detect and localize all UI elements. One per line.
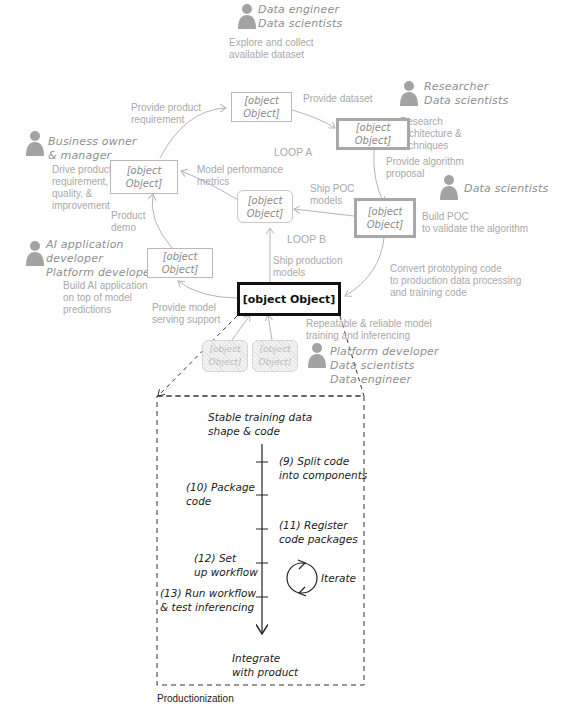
node-product-management[interactable]: [object Object] [110,160,178,194]
edge-convert-prototyping-code: Convert prototyping code to production d… [390,263,521,299]
person-icon [24,130,46,156]
desc-product-integration: Build AI application on top of model pre… [63,280,148,316]
desc-data-exploration: Explore and collect available dataset [229,37,314,61]
node-dl-research[interactable]: [object Object] [336,118,410,150]
detail-step-11: (11) Register code packages [279,518,358,546]
person-icon [24,240,46,266]
edge-ship-poc-models: Ship POC models [310,183,354,207]
desc-product-management: Drive product requirement, quality, & im… [52,164,111,212]
role-dl-research: Researcher Data scientists [424,80,508,108]
edge-ship-production-models: Ship production models [273,255,343,279]
loop-a-label: LOOP A [274,146,312,158]
edge-provide-algorithm-proposal: Provide algorithm proposal [386,156,464,180]
edge-provide-product-requirement: Provide product requirement [131,102,201,126]
role-data-exploration: Data engineer Data scientists [258,3,342,31]
node-model[interactable]: [object Object] [237,190,293,223]
role-product-integration: AI application developer Platform develo… [46,238,155,280]
detail-step-9: (9) Split code into components [279,454,367,482]
edge-product-demo: Product demo [111,210,145,234]
node-productionization[interactable]: [object Object] [237,282,341,316]
desc-prototyping: Build POC to validate the algorithm [422,211,528,235]
node-prototyping[interactable]: [object Object] [354,198,416,238]
detail-end-label: Integrate with product [232,651,298,679]
detail-step-10: (10) Package code [186,480,255,508]
ml-development-cycle-diagram: Data engineer Data scientists Researcher… [0,0,573,719]
person-icon [398,80,420,106]
edge-provide-dataset: Provide dataset [303,93,373,105]
detail-step-13: (13) Run workflow & test inferencing [160,586,256,614]
role-prototyping: Data scientists [464,182,548,196]
loop-b-label: LOOP B [287,233,326,245]
desc-productionization: Repeatable & reliable model training and… [306,318,432,342]
node-dl-systems[interactable]: [object Object] [252,340,298,372]
person-icon [306,342,328,368]
detail-iterate-label: Iterate [321,571,356,585]
edge-provide-model-serving-support: Provide model serving support [152,302,220,326]
node-product-integration[interactable]: [object Object] [147,248,213,278]
role-productionization: Platform developer Data scientists Data … [330,345,439,387]
node-data-exploration[interactable]: [object Object] [231,92,292,122]
node-mlops[interactable]: [object Object] [202,340,248,372]
person-icon [236,3,258,29]
figure-caption: Productionization [157,693,234,704]
iterate-loop-icon [287,563,317,593]
role-product-management: Business owner & manager [48,135,137,163]
detail-start-label: Stable training data shape & code [208,410,312,438]
edge-model-performance-metrics: Model performance metrics [197,164,283,188]
detail-step-12: (12) Set up workflow [194,551,258,579]
